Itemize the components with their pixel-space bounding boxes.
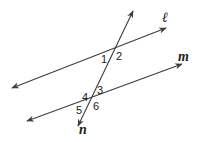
angle-label-1: 1 [101, 53, 107, 65]
label-n: n [79, 122, 87, 137]
parallel-lines-diagram: ℓ m n 1 2 3 4 5 6 [0, 0, 199, 142]
label-m: m [178, 49, 189, 64]
line-n-transversal [78, 11, 133, 126]
angle-label-6: 6 [93, 100, 99, 112]
label-ell: ℓ [162, 10, 168, 25]
angle-label-4: 4 [82, 91, 88, 103]
angle-label-3: 3 [97, 84, 103, 96]
line-ell [12, 28, 166, 88]
angle-label-2: 2 [116, 50, 122, 62]
angle-label-5: 5 [76, 104, 82, 116]
